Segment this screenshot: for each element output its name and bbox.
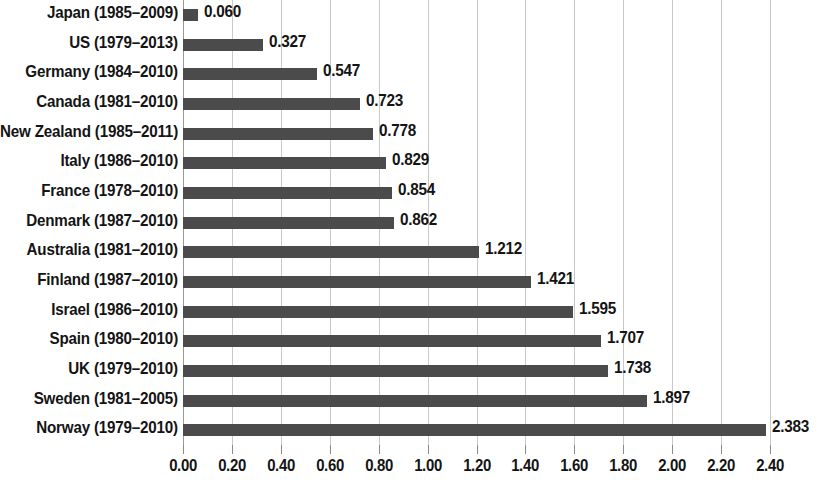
- bar-row[interactable]: 0.723: [183, 89, 770, 119]
- category-label: Canada (1981–2010): [0, 92, 178, 111]
- category-label: Japan (1985–2009): [0, 3, 178, 22]
- bar-value-label: 0.060: [204, 2, 241, 22]
- x-tick-label: 1.40: [512, 456, 540, 476]
- bar-row[interactable]: 1.421: [183, 267, 770, 297]
- x-tick-label: 1.20: [463, 456, 491, 476]
- tickmark: [330, 445, 331, 454]
- category-label: France (1978–2010): [0, 181, 178, 200]
- bar-value-label: 1.738: [614, 358, 651, 378]
- category-label: Norway (1979–2010): [0, 418, 178, 437]
- x-tick-label: 1.80: [609, 456, 637, 476]
- bar-value-label: 2.383: [772, 417, 809, 437]
- tickmark: [379, 445, 380, 454]
- bar[interactable]: [183, 217, 394, 229]
- bar-value-label: 1.421: [537, 269, 574, 289]
- tickmark: [232, 445, 233, 454]
- x-tick-label: 1.00: [414, 456, 442, 476]
- bar-value-label: 1.212: [485, 239, 522, 259]
- category-label: Italy (1986–2010): [0, 151, 178, 170]
- bar[interactable]: [183, 276, 531, 288]
- x-tick-label: 2.40: [756, 456, 784, 476]
- bar-row[interactable]: 1.595: [183, 297, 770, 327]
- bar-row[interactable]: 0.327: [183, 30, 770, 60]
- bar-row[interactable]: 0.060: [183, 0, 770, 30]
- tickmark: [477, 445, 478, 454]
- tickmark: [770, 445, 771, 454]
- bar[interactable]: [183, 187, 392, 199]
- category-label: Australia (1981–2010): [0, 240, 178, 259]
- bar[interactable]: [183, 68, 317, 80]
- x-tick-label: 0.60: [316, 456, 344, 476]
- bar[interactable]: [183, 157, 386, 169]
- bar[interactable]: [183, 39, 263, 51]
- bar[interactable]: [183, 9, 198, 21]
- category-label: Spain (1980–2010): [0, 329, 178, 348]
- bar[interactable]: [183, 98, 360, 110]
- bar-row[interactable]: 0.547: [183, 59, 770, 89]
- category-label: Israel (1986–2010): [0, 300, 178, 319]
- bar-value-label: 0.723: [366, 91, 403, 111]
- category-label: UK (1979–2010): [0, 359, 178, 378]
- category-label: US (1979–2013): [0, 33, 178, 52]
- x-tick-label: 2.00: [658, 456, 686, 476]
- bar-value-label: 1.707: [607, 328, 644, 348]
- bar-row[interactable]: 0.829: [183, 148, 770, 178]
- x-tick-label: 0.40: [267, 456, 295, 476]
- bar-value-label: 0.829: [392, 150, 429, 170]
- x-tick-label: 0.00: [169, 456, 197, 476]
- bar-row[interactable]: 1.897: [183, 386, 770, 416]
- gridline: [770, 0, 771, 445]
- tickmark: [428, 445, 429, 454]
- category-label: Denmark (1987–2010): [0, 211, 178, 230]
- bar-value-label: 0.862: [400, 210, 437, 230]
- bar-row[interactable]: 1.212: [183, 237, 770, 267]
- tickmark: [623, 445, 624, 454]
- bar[interactable]: [183, 424, 766, 436]
- tickmark: [183, 445, 184, 454]
- x-tick-label: 2.20: [707, 456, 735, 476]
- category-label: Germany (1984–2010): [0, 62, 178, 81]
- bar-row[interactable]: 0.854: [183, 178, 770, 208]
- bar-row[interactable]: 2.383: [183, 415, 770, 445]
- bar[interactable]: [183, 335, 601, 347]
- category-label: Sweden (1981–2005): [0, 389, 178, 408]
- category-label: Finland (1987–2010): [0, 270, 178, 289]
- bar-row[interactable]: 1.707: [183, 326, 770, 356]
- bar-value-label: 1.897: [653, 388, 690, 408]
- category-label: New Zealand (1985–2011): [0, 122, 178, 141]
- tickmark: [574, 445, 575, 454]
- bar-value-label: 0.854: [398, 180, 435, 200]
- plot-area: 0.0600.3270.5470.7230.7780.8290.8540.862…: [183, 0, 770, 445]
- bar-row[interactable]: 0.778: [183, 119, 770, 149]
- bar[interactable]: [183, 128, 373, 140]
- bar-value-label: 1.595: [579, 299, 616, 319]
- bar[interactable]: [183, 395, 647, 407]
- tickmark: [721, 445, 722, 454]
- bar[interactable]: [183, 365, 608, 377]
- bar-value-label: 0.327: [269, 32, 306, 52]
- bar-value-label: 0.778: [379, 121, 416, 141]
- x-tick-label: 0.20: [218, 456, 246, 476]
- bar-row[interactable]: 0.862: [183, 208, 770, 238]
- bar-chart: Japan (1985–2009)US (1979–2013)Germany (…: [0, 0, 819, 486]
- bar[interactable]: [183, 246, 479, 258]
- bar[interactable]: [183, 306, 573, 318]
- bar-row[interactable]: 1.738: [183, 356, 770, 386]
- bar-value-label: 0.547: [323, 61, 360, 81]
- x-tick-label: 0.80: [365, 456, 393, 476]
- x-tick-label: 1.60: [560, 456, 588, 476]
- tickmark: [281, 445, 282, 454]
- tickmark: [672, 445, 673, 454]
- tickmark: [525, 445, 526, 454]
